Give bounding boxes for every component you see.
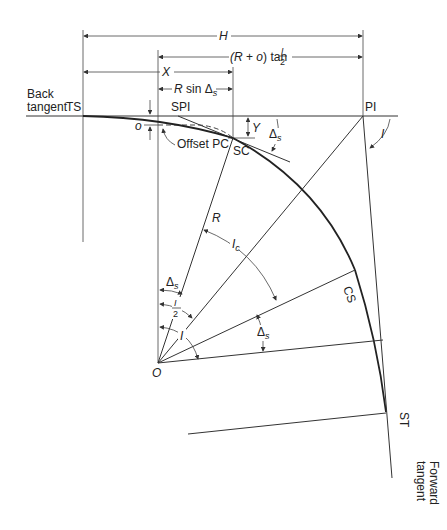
h-label: H — [219, 29, 228, 43]
i-angle-arc-pi — [370, 119, 390, 148]
spiral-curve-diagram: H (R + o) tan I 2 X R sin Δs Back tangen… — [0, 0, 447, 530]
st-label: ST — [397, 412, 411, 428]
forward-tangent-label-2: tangent — [414, 461, 428, 502]
offset-pc-label: Offset PC — [177, 137, 229, 151]
radius-label: R — [212, 211, 221, 225]
st-perpendicular-line — [188, 413, 386, 434]
spi-label: SPI — [171, 100, 190, 114]
radius-to-spiral-end — [158, 340, 383, 363]
pi-label: PI — [365, 100, 376, 114]
sc-label: SC — [233, 144, 250, 158]
o-label: o — [135, 119, 142, 133]
delta-s-o-label: Δs — [166, 275, 179, 291]
r-sin-delta-label: R sin Δs — [174, 82, 218, 98]
delta-s-o-arc — [160, 290, 182, 294]
forward-tangent-line — [363, 116, 392, 478]
ts-label: TS — [66, 100, 81, 114]
center-label: O — [152, 366, 161, 380]
cs-label: CS — [340, 284, 359, 304]
half-i-denominator: 2 — [173, 309, 178, 319]
x-label: X — [161, 65, 171, 79]
radius-to-cs — [158, 270, 355, 363]
offset-pc-leader — [163, 129, 175, 145]
two-denominator: 2 — [280, 57, 285, 67]
tangent-distance-label: (R + o) tan — [230, 50, 287, 64]
forward-tangent-label-1: Forward — [427, 461, 441, 505]
back-tangent-label-1: Back — [27, 87, 55, 101]
back-tangent-label-2: tangent — [27, 100, 68, 114]
y-label: Y — [252, 121, 261, 135]
radius-to-sc — [158, 138, 233, 363]
